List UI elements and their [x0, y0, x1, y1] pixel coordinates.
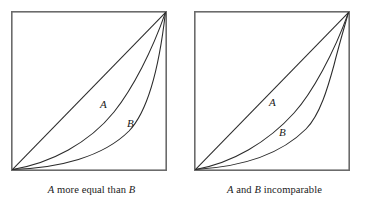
- plot-area-right: A B: [194, 11, 350, 171]
- plot-area-left: A B: [11, 11, 167, 171]
- curve-b-label: B: [127, 117, 134, 129]
- caption-left-var-b: B: [129, 184, 136, 195]
- panel-right: A B A and B incomparable: [183, 0, 366, 209]
- lorenz-diagram-left: A B: [11, 11, 167, 171]
- curve-a-label: A: [268, 96, 276, 108]
- curve-b-label: B: [279, 126, 286, 138]
- caption-right-tail: incomparable: [261, 184, 322, 195]
- panel-left: A B A more equal than B: [0, 0, 183, 209]
- caption-right: A and B incomparable: [183, 183, 366, 196]
- caption-left-middle: more equal than: [54, 184, 129, 195]
- caption-left: A more equal than B: [0, 183, 183, 196]
- curve-a-label: A: [99, 98, 107, 110]
- caption-right-middle: and: [234, 184, 255, 195]
- figure-root: A B A more equal than B A B A and B inco…: [0, 0, 366, 209]
- lorenz-diagram-right: A B: [194, 11, 350, 171]
